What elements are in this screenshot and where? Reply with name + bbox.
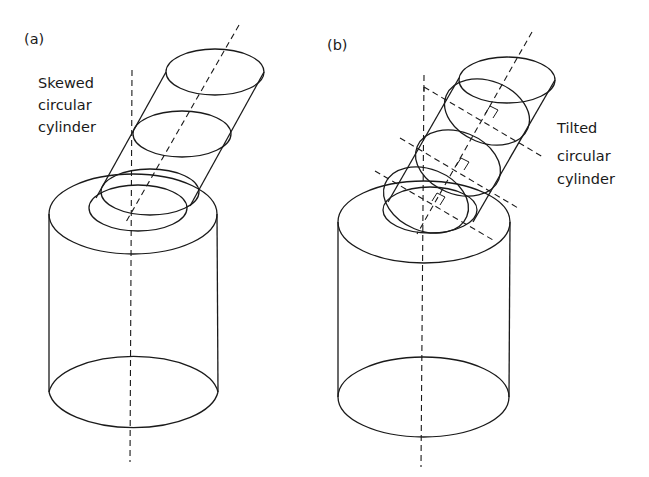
- base-right-edge: [217, 214, 218, 392]
- base-bottom-front-arc: [338, 397, 509, 437]
- skewed-mid-lower-ellipse: [101, 169, 199, 215]
- panel-a-caption-line-2: circular: [38, 97, 92, 113]
- vertical-axis: [130, 70, 132, 462]
- panel-a-skewed-cylinder: [89, 25, 264, 231]
- panel-b-tilted-cylinder: [374, 32, 555, 245]
- tilted-right-generator: [473, 80, 555, 222]
- panel-a-caption-line-3: cylinder: [38, 119, 96, 135]
- skewed-base-ellipse: [89, 185, 187, 231]
- tilted-base-ellipse: [383, 187, 477, 233]
- cylinder-comparison-figure: (a) Skewed circular cylinder (b) Tilted …: [0, 0, 649, 477]
- tilted-top-ellipse: [459, 57, 555, 103]
- panel-b-caption-line-3: cylinder: [557, 171, 615, 187]
- right-angle-marker-lower: [432, 193, 445, 205]
- panel-a-caption-line-1: Skewed: [38, 75, 94, 91]
- panel-b-label: (b): [327, 37, 348, 53]
- skewed-right-generator: [190, 72, 264, 206]
- panel-b-caption-line-1: Tilted: [556, 120, 597, 136]
- panel-a-label: (a): [24, 31, 44, 47]
- vertical-axis: [421, 75, 424, 467]
- base-bottom-back-arc: [338, 357, 509, 397]
- panel-b-caption-line-2: circular: [557, 148, 611, 164]
- base-right-edge: [509, 222, 510, 397]
- base-bottom-back-arc: [49, 356, 218, 392]
- perpendicular-line-upper: [424, 87, 543, 157]
- skewed-top-ellipse: [166, 49, 264, 95]
- panel-b: (b) Tilted circular cylinder: [327, 32, 615, 467]
- panel-a: (a) Skewed circular cylinder: [24, 25, 264, 462]
- base-bottom-front-arc: [49, 392, 218, 428]
- right-angle-marker-middle: [456, 158, 469, 170]
- panel-b-base-cylinder: [338, 75, 510, 467]
- skewed-left-generator: [96, 72, 166, 198]
- skewed-middle-ellipse: [133, 111, 231, 157]
- tilted-axis: [417, 32, 532, 234]
